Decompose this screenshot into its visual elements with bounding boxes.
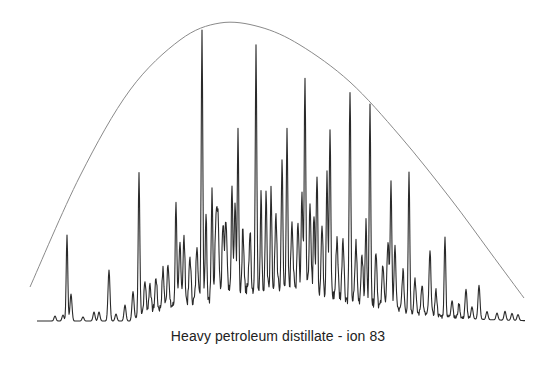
chromatogram-chart — [0, 0, 556, 369]
chromatogram-trace — [37, 30, 525, 321]
chart-caption: Heavy petroleum distillate - ion 83 — [0, 328, 556, 344]
